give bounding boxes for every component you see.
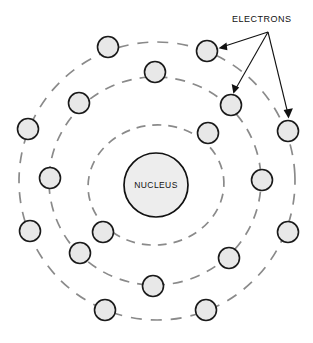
electron-14: [70, 243, 91, 264]
electron-2: [197, 41, 218, 62]
electron-6: [278, 222, 299, 243]
electron-18: [143, 276, 164, 297]
electron-15: [219, 248, 240, 269]
leader-arrowhead-top: [219, 42, 228, 50]
leader-arrowhead-right: [284, 108, 293, 118]
atom-diagram: NUCLEUS ELECTRONS: [0, 0, 313, 343]
electron-5: [20, 221, 41, 242]
electron-3: [18, 119, 39, 140]
nucleus-label: NUCLEUS: [134, 180, 177, 190]
electron-9: [69, 93, 90, 114]
electron-8: [196, 300, 217, 321]
electron-7: [95, 300, 116, 321]
electron-13: [252, 170, 273, 191]
electron-16: [93, 222, 114, 243]
electron-1: [98, 37, 119, 58]
electron-11: [221, 95, 242, 116]
nucleus-group: NUCLEUS: [124, 153, 188, 217]
electron-17: [198, 123, 219, 144]
electrons-label: ELECTRONS: [232, 14, 292, 24]
atom-diagram-canvas: NUCLEUS ELECTRONS: [0, 0, 313, 343]
electron-10: [145, 62, 166, 83]
electron-4: [278, 121, 299, 142]
electron-12: [40, 168, 61, 189]
leader-line-right: [268, 32, 288, 114]
